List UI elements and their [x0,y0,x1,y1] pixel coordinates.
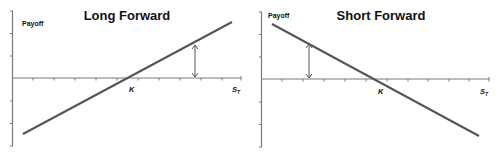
y-axis-label: Payoff [268,12,290,20]
payoff-arrow [192,45,198,77]
chart-title: Long Forward [84,8,171,23]
y-axis-label: Payoff [22,20,44,28]
strike-label: K [378,87,384,96]
payoff-arrow [306,44,312,78]
forward-payoff-figure: Long Forward Payoff K ST [0,0,502,153]
long-forward-chart: Long Forward Payoff K ST [10,8,241,146]
strike-label: K [129,85,135,94]
short-forward-chart: Short Forward Payoff K ST [259,8,489,147]
chart-title: Short Forward [337,8,426,23]
x-axis-label: ST [232,85,241,95]
x-axis-label: ST [480,87,489,97]
